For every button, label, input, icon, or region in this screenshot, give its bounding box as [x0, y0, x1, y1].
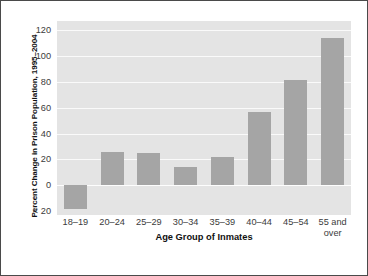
y-axis-tick-labels: 120100806040200< 20	[1, 1, 55, 276]
plot-area	[57, 21, 351, 215]
y-tick-label: 0	[46, 180, 51, 190]
x-tick-label: 35–39	[204, 217, 241, 228]
bar	[137, 153, 160, 185]
bar	[284, 80, 307, 185]
x-tick-label: 25–29	[131, 217, 168, 228]
y-tick-label: < 20	[33, 206, 51, 216]
y-tick-label: 120	[36, 25, 51, 35]
x-axis-title: Age Group of Inmates	[57, 232, 351, 242]
y-tick-label: 20	[41, 154, 51, 164]
x-tick-label: 18–19	[57, 217, 94, 228]
y-tick-label: 80	[41, 77, 51, 87]
bar	[211, 157, 234, 185]
x-tick-label: 30–34	[167, 217, 204, 228]
bar	[321, 38, 344, 185]
bar-chart-figure: Percent Change in Prison Population, 199…	[0, 0, 368, 276]
x-tick-label: 45–54	[278, 217, 315, 228]
bar	[101, 152, 124, 186]
y-tick-label: 60	[41, 103, 51, 113]
bar	[174, 167, 197, 185]
y-tick-label: 100	[36, 51, 51, 61]
x-tick-label: 20–24	[94, 217, 131, 228]
y-tick-label: 40	[41, 129, 51, 139]
bar	[248, 112, 271, 186]
bar	[64, 185, 87, 208]
x-tick-label: 40–44	[241, 217, 278, 228]
bar-series	[57, 21, 351, 215]
